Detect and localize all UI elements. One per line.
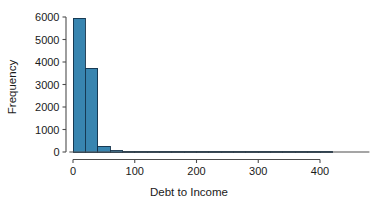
x-tick-label: 0 — [70, 165, 76, 177]
y-tick-label: 3000 — [35, 79, 59, 91]
histogram-bar — [85, 68, 97, 152]
y-tick-label: 6000 — [35, 11, 59, 23]
y-tick-label: 4000 — [35, 56, 59, 68]
histogram-figure: 0100200300400 0100020003000400050006000 … — [0, 0, 378, 205]
histogram-bar — [98, 146, 110, 152]
y-tick-label: 1000 — [35, 124, 59, 136]
x-tick-label: 100 — [126, 165, 144, 177]
plot-canvas: 0100200300400 0100020003000400050006000 … — [0, 0, 378, 205]
x-axis-title: Debt to Income — [150, 186, 228, 198]
x-tick-label: 200 — [187, 165, 205, 177]
y-axis-title: Frequency — [6, 60, 18, 115]
x-tick-label: 400 — [311, 165, 329, 177]
y-tick-label: 5000 — [35, 34, 59, 46]
x-tick-label: 300 — [249, 165, 267, 177]
y-tick-label: 2000 — [35, 101, 59, 113]
histogram-bar — [73, 18, 85, 152]
y-tick-label: 0 — [53, 146, 59, 158]
